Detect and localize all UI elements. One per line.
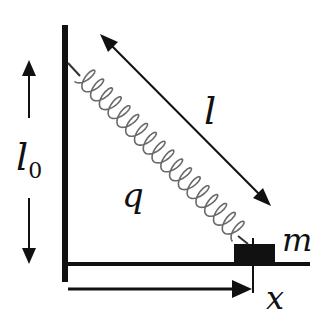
l0-label: l0 <box>16 138 42 176</box>
wall <box>62 25 68 282</box>
diagram-drawing <box>0 0 328 325</box>
spring-mass-diagram: l0 l q m x <box>0 0 328 325</box>
spring <box>68 63 248 244</box>
l0-arrow-down-icon <box>22 198 36 264</box>
l0-arrow-up-icon <box>22 60 36 118</box>
x-arrow-icon <box>68 280 252 298</box>
l0-label-subscript: 0 <box>28 158 42 183</box>
l0-label-main: l <box>16 135 28 179</box>
m-label: m <box>282 224 312 256</box>
l-label: l <box>204 92 216 130</box>
mass-block <box>234 244 275 265</box>
q-label: q <box>122 178 144 212</box>
x-label: x <box>266 282 284 314</box>
